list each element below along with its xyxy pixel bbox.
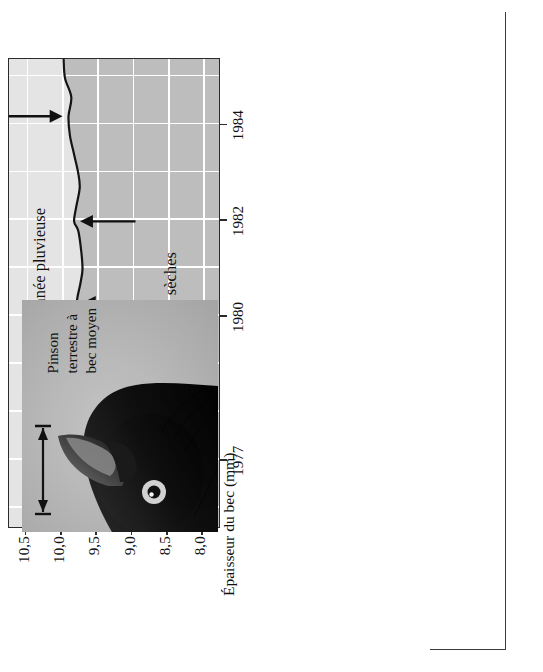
y-tick-label-8,5: 8,5	[157, 536, 174, 582]
figure-photo-rotated: Pinson terrestre à bec moyen	[4, 318, 236, 514]
finch-caption: Pinson terrestre à bec moyen	[44, 308, 102, 373]
y-tick-label-10,0: 10,0	[51, 536, 68, 582]
finch-photo: Pinson terrestre à bec moyen	[22, 300, 218, 532]
page-border-rule-right	[505, 12, 506, 650]
y-tick-label-9,5: 9,5	[86, 536, 103, 582]
x-tick-1980	[220, 315, 227, 317]
finch-caption-line-3: bec moyen	[82, 308, 101, 373]
finch-caption-line-1: Pinson	[44, 308, 63, 373]
beak-depth-measure-icon	[32, 422, 54, 518]
x-tick-1984	[220, 124, 227, 126]
finch-caption-line-2: terrestre à	[63, 308, 82, 373]
y-tick-label-9,0: 9,0	[122, 536, 139, 582]
page-border-rule-bottom	[430, 649, 506, 650]
x-tick-label-1984: 1984	[230, 102, 247, 148]
x-tick-1982	[220, 219, 227, 221]
y-tick-label-10,5: 10,5	[16, 536, 33, 582]
y-tick-label-8,0: 8,0	[192, 536, 209, 582]
x-tick-label-1982: 1982	[230, 198, 247, 244]
